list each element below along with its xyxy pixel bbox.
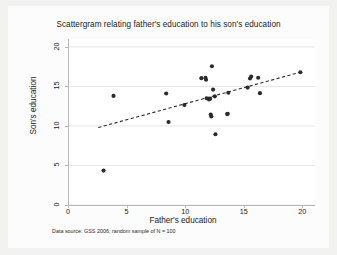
x-axis-label: Father's education	[60, 216, 306, 225]
y-tick-label: 15	[52, 76, 61, 96]
y-tick-mark	[65, 47, 68, 48]
y-axis-label: Son's education	[29, 51, 38, 161]
x-tick-label: 10	[175, 207, 195, 216]
x-tick-label: 0	[58, 207, 78, 216]
y-tick-mark	[65, 165, 68, 166]
fit-line	[98, 72, 300, 127]
y-tick-label: 5	[52, 155, 61, 175]
y-tick-label: 0	[52, 195, 61, 215]
scattergram-screenshot: Scattergram relating father's education …	[0, 0, 337, 255]
scatter-plot-svg	[69, 39, 315, 205]
y-tick-mark	[65, 205, 68, 206]
page-title: Scattergram relating father's education …	[8, 20, 329, 29]
y-tick-mark	[65, 86, 68, 87]
graph-region: Scattergram relating father's education …	[8, 6, 329, 248]
y-tick-label: 20	[52, 36, 61, 56]
x-tick-label: 15	[234, 207, 254, 216]
x-tick-label: 20	[292, 207, 312, 216]
y-tick-mark	[65, 126, 68, 127]
source-note: Data source: GSS 2006; random sample of …	[52, 228, 176, 234]
y-tick-label: 10	[52, 115, 61, 135]
x-tick-label: 5	[117, 207, 137, 216]
plot-area	[68, 39, 315, 206]
